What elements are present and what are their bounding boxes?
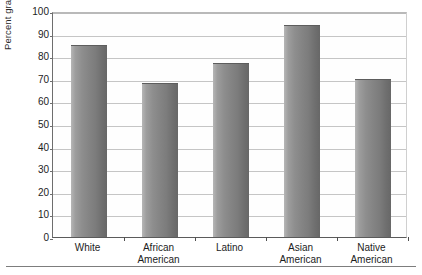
bar[interactable] [71,45,107,237]
bar-slot [337,13,408,237]
bar[interactable] [355,79,391,237]
bar-slot [266,13,337,237]
x-axis-category-labels: WhiteAfricanAmericanLatinoAsianAmericanN… [52,242,407,272]
y-axis-tick-label: 10 [18,210,49,220]
bar[interactable] [213,63,249,237]
y-axis-tick-label: 70 [18,75,49,85]
x-axis-tick-mark [266,237,267,241]
category-label-line1: African [143,242,174,253]
footer-rule [6,266,416,267]
category-label-line2: American [265,254,336,266]
bar[interactable] [284,25,320,237]
y-axis-tick-labels: 1009080706050403020100 [18,12,49,238]
y-axis-tick-label: 30 [18,165,49,175]
y-axis-tick-label: 60 [18,97,49,107]
x-axis-tick-mark [124,237,125,241]
x-axis-tick-mark [408,237,409,241]
y-axis-tick-label: 80 [18,52,49,62]
bar-chart-figure: Percent graduating 100908070605040302010… [0,0,422,275]
y-axis-title: Percent graduating [2,0,16,74]
bar-slot [53,13,124,237]
plot-area [52,12,407,238]
x-axis-tick-mark [337,237,338,241]
category-label-line2: American [123,254,194,266]
bars-layer [53,13,406,237]
y-axis-tick-label: 90 [18,30,49,40]
x-axis-category-label: White [52,242,123,254]
bar[interactable] [142,83,178,237]
y-axis-tick-label: 50 [18,120,49,130]
x-axis-tick-mark [195,237,196,241]
y-axis-tick-label: 0 [18,233,49,243]
x-axis-category-label: Latino [194,242,265,254]
category-label-line1: Asian [288,242,313,253]
x-axis-category-label: AsianAmerican [265,242,336,266]
x-axis-category-label: AfricanAmerican [123,242,194,266]
bar-slot [124,13,195,237]
y-axis-tick-label: 40 [18,143,49,153]
category-label-line1: White [75,242,101,253]
category-label-line1: Native [357,242,385,253]
x-axis-category-label: NativeAmerican [336,242,407,266]
y-axis-tick-mark [50,239,53,240]
y-axis-tick-label: 100 [18,7,49,17]
category-label-line1: Latino [216,242,243,253]
y-axis-tick-label: 20 [18,188,49,198]
category-label-line2: American [336,254,407,266]
bar-slot [195,13,266,237]
